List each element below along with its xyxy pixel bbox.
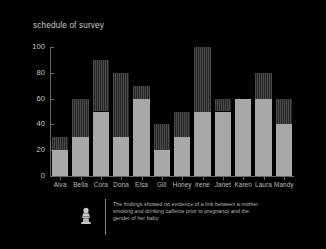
bar-segment-upper[interactable] bbox=[174, 112, 190, 138]
x-tick-label: Elsa bbox=[131, 181, 151, 188]
x-axis-line bbox=[50, 176, 294, 177]
plot-area bbox=[50, 47, 294, 176]
y-tick-label: 40 bbox=[25, 120, 45, 128]
bar-segment-upper[interactable] bbox=[215, 99, 231, 112]
bar-segment-upper[interactable] bbox=[113, 73, 129, 138]
bar-segment-lower[interactable] bbox=[235, 99, 251, 176]
y-tick-label: 0 bbox=[25, 172, 45, 180]
x-tick-mark bbox=[81, 177, 82, 180]
bar-segment-upper[interactable] bbox=[154, 124, 170, 150]
bar-group[interactable] bbox=[194, 47, 210, 176]
x-tick-label: Mandy bbox=[274, 181, 294, 188]
x-tick-mark bbox=[243, 177, 244, 180]
bar-segment-lower[interactable] bbox=[93, 112, 109, 177]
bar-segment-lower[interactable] bbox=[194, 112, 210, 177]
bar-segment-lower[interactable] bbox=[72, 137, 88, 176]
bar-segment-upper[interactable] bbox=[72, 99, 88, 138]
x-tick-label: Gill bbox=[152, 181, 172, 188]
bar-segment-lower[interactable] bbox=[154, 150, 170, 176]
x-tick-mark bbox=[121, 177, 122, 180]
x-tick-label: Dona bbox=[111, 181, 131, 188]
bar-segment-upper[interactable] bbox=[52, 137, 68, 150]
bar-segment-lower[interactable] bbox=[215, 112, 231, 177]
y-tick-label-wrapper: 60 bbox=[21, 95, 45, 103]
bar-group[interactable] bbox=[93, 47, 109, 176]
y-tick-label-wrapper: 20 bbox=[21, 146, 45, 154]
bar-group[interactable] bbox=[276, 47, 292, 176]
y-tick-label-wrapper: 100 bbox=[21, 43, 45, 51]
bar-segment-lower[interactable] bbox=[255, 99, 271, 176]
bar-segment-lower[interactable] bbox=[133, 99, 149, 176]
bar-group[interactable] bbox=[215, 47, 231, 176]
bar-group[interactable] bbox=[255, 47, 271, 176]
bar-group[interactable] bbox=[235, 47, 251, 176]
bar-segment-lower[interactable] bbox=[276, 124, 292, 176]
x-tick-mark bbox=[162, 177, 163, 180]
bar-segment-upper[interactable] bbox=[93, 60, 109, 112]
figure-icon bbox=[78, 207, 94, 227]
y-tick-label-wrapper: 80 bbox=[21, 69, 45, 77]
bar-segment-lower[interactable] bbox=[52, 150, 68, 176]
x-tick-mark bbox=[60, 177, 61, 180]
bar-group[interactable] bbox=[52, 47, 68, 176]
bar-segment-upper[interactable] bbox=[276, 99, 292, 125]
x-tick-mark bbox=[101, 177, 102, 180]
bar-group[interactable] bbox=[113, 47, 129, 176]
bar-segment-upper[interactable] bbox=[255, 73, 271, 99]
y-tick-mark bbox=[50, 176, 54, 177]
caption-divider bbox=[105, 199, 106, 235]
y-tick-label: 80 bbox=[25, 69, 45, 77]
x-tick-mark bbox=[182, 177, 183, 180]
x-tick-mark bbox=[264, 177, 265, 180]
chart-figure: schedule of survey 020406080100 AlvaBell… bbox=[0, 0, 326, 249]
x-tick-mark bbox=[284, 177, 285, 180]
bar-segment-upper[interactable] bbox=[133, 86, 149, 99]
y-tick-label: 20 bbox=[25, 146, 45, 154]
bar-group[interactable] bbox=[133, 47, 149, 176]
x-tick-label: Laura bbox=[253, 181, 273, 188]
y-tick-label: 100 bbox=[25, 43, 45, 51]
x-tick-label: Bella bbox=[70, 181, 90, 188]
y-tick-label: 60 bbox=[25, 95, 45, 103]
x-tick-label: Alva bbox=[50, 181, 70, 188]
x-tick-label: Irene bbox=[192, 181, 212, 188]
caption-block: The findings showed no evidence of a lin… bbox=[75, 199, 305, 239]
chart-title: schedule of survey bbox=[33, 21, 104, 30]
bar-group[interactable] bbox=[154, 47, 170, 176]
x-tick-label: Janet bbox=[213, 181, 233, 188]
y-tick-label-wrapper: 40 bbox=[21, 120, 45, 128]
x-tick-label: Cora bbox=[91, 181, 111, 188]
x-tick-mark bbox=[223, 177, 224, 180]
x-tick-mark bbox=[203, 177, 204, 180]
caption-text: The findings showed no evidence of a lin… bbox=[113, 201, 263, 223]
x-tick-mark bbox=[142, 177, 143, 180]
bar-segment-lower[interactable] bbox=[174, 137, 190, 176]
bar-segment-lower[interactable] bbox=[113, 137, 129, 176]
x-tick-label: Karen bbox=[233, 181, 253, 188]
bar-group[interactable] bbox=[72, 47, 88, 176]
x-tick-label: Honey bbox=[172, 181, 192, 188]
y-tick-label-wrapper: 0 bbox=[21, 172, 45, 180]
bar-segment-upper[interactable] bbox=[194, 47, 210, 112]
bar-group[interactable] bbox=[174, 47, 190, 176]
